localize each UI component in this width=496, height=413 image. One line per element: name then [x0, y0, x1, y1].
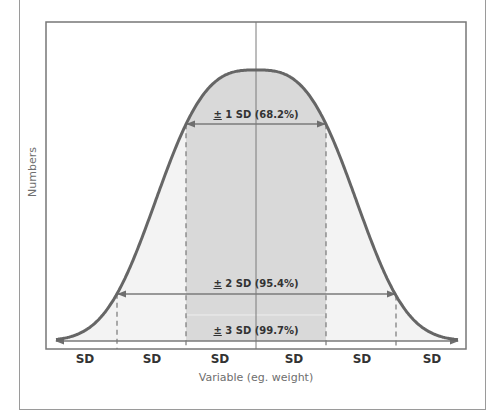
x-axis-label: Variable (eg. weight) [199, 371, 313, 384]
x-tick-label: SD [76, 352, 95, 366]
x-tick-label: SD [211, 352, 230, 366]
x-tick-label: SD [353, 352, 372, 366]
band-1sd-label: ± 1 SD (68.2%) [213, 109, 298, 120]
normal-distribution-chart [0, 0, 496, 413]
band-3sd-text: 3 SD (99.7%) [225, 325, 298, 336]
band-2sd-label: ± 2 SD (95.4%) [213, 278, 298, 289]
plus-minus-symbol: ± [213, 278, 221, 289]
band-2sd-text: 2 SD (95.4%) [225, 278, 298, 289]
x-tick-label: SD [143, 352, 162, 366]
plus-minus-symbol: ± [213, 325, 221, 336]
y-axis-label: Numbers [26, 147, 39, 197]
band-3sd-label: ± 3 SD (99.7%) [213, 325, 298, 336]
x-tick-label: SD [423, 352, 442, 366]
band-1sd-text: 1 SD (68.2%) [225, 109, 298, 120]
x-tick-label: SD [285, 352, 304, 366]
plus-minus-symbol: ± [213, 109, 221, 120]
